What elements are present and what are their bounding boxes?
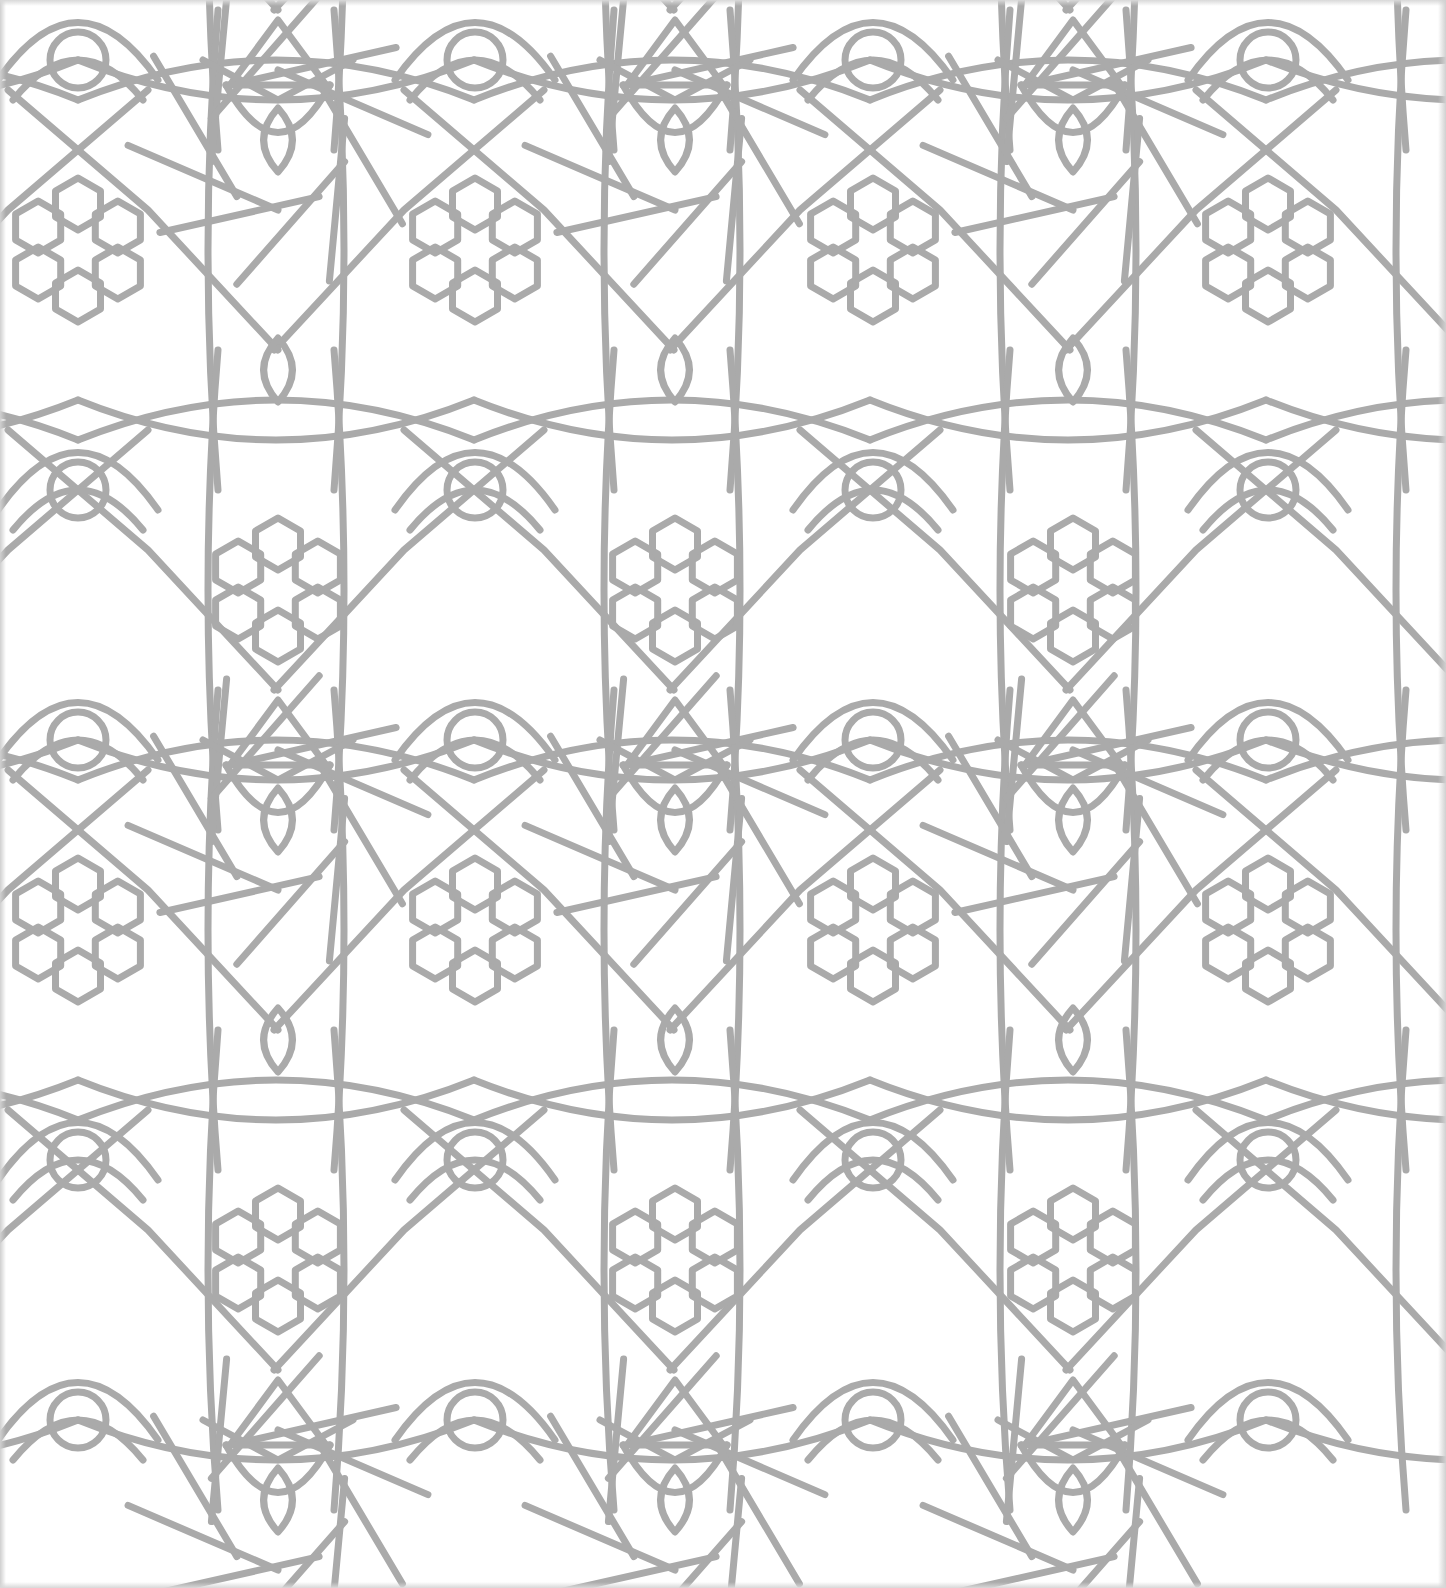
top-edge-shadow <box>0 0 1446 6</box>
geometric-pattern <box>0 0 1446 1588</box>
bottom-edge-shadow <box>0 1582 1446 1588</box>
left-edge-shadow <box>0 0 6 1588</box>
right-edge-shadow <box>1438 0 1446 1588</box>
